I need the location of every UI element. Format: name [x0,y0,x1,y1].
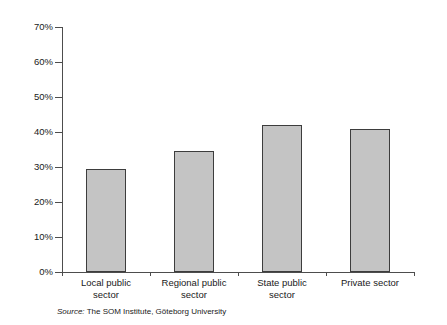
y-axis-tick [55,97,62,98]
y-axis-tick [55,237,62,238]
y-axis-tick [55,202,62,203]
bar [350,129,390,273]
source-label: Source: [57,307,85,316]
y-axis-tick [55,132,62,133]
x-axis-label-line: Private sector [316,277,424,289]
y-axis-tick [55,272,62,273]
x-axis-tick [238,272,239,276]
y-axis-tick-label: 0% [7,267,53,277]
x-axis-tick [414,272,415,276]
plot-area: 0%10%20%30%40%50%60%70% Local publicsect… [0,0,447,325]
x-axis-tick [62,272,63,276]
source-note: Source: The SOM Institute, Göteborg Univ… [57,307,226,317]
bar-chart-figure: 0%10%20%30%40%50%60%70% Local publicsect… [0,0,447,325]
y-axis-tick-label: 60% [7,57,53,67]
bar [262,125,302,272]
y-axis-tick-label: 50% [7,92,53,102]
y-axis-line [62,27,63,273]
y-axis-tick [55,27,62,28]
y-axis-tick-label: 30% [7,162,53,172]
y-axis-tick-label: 40% [7,127,53,137]
y-axis-tick [55,62,62,63]
y-axis-tick-label: 20% [7,197,53,207]
x-axis-tick [326,272,327,276]
x-axis-tick [150,272,151,276]
bar [174,151,214,272]
x-axis-label-line: sector [228,289,336,301]
y-axis-tick-label: 10% [7,232,53,242]
y-axis-tick [55,167,62,168]
bar [86,169,126,272]
y-axis-tick-label: 70% [7,22,53,32]
x-axis-category-label: Private sector [316,277,424,289]
source-text: The SOM Institute, Göteborg University [87,307,227,316]
